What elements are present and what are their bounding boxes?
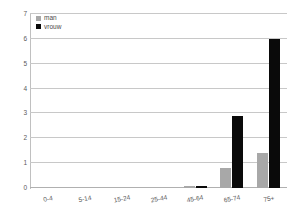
y-tick-label: 7: [5, 11, 27, 18]
legend-swatch-icon: [36, 16, 41, 21]
bar-group: [250, 14, 287, 188]
bar-group: [103, 14, 140, 188]
y-tick-label: 4: [5, 85, 27, 92]
bars-layer: [30, 14, 287, 188]
bar-vrouw: [232, 116, 243, 188]
bar-vrouw: [269, 39, 280, 188]
y-tick-label: 5: [5, 60, 27, 67]
y-tick-label: 3: [5, 110, 27, 117]
legend-item: vrouw: [36, 24, 61, 31]
bar-group: [214, 14, 251, 188]
bar-group: [67, 14, 104, 188]
x-tick-label: 25-44: [150, 194, 168, 204]
x-tick-label: 15-24: [113, 194, 131, 204]
legend: manvrouw: [36, 15, 61, 30]
x-tick-label: 5-14: [78, 195, 92, 204]
legend-item: man: [36, 15, 61, 22]
y-tick-label: 6: [5, 36, 27, 43]
bar-man: [257, 153, 268, 188]
legend-swatch-icon: [36, 24, 41, 29]
bar-chart: 01234567 0-45-1415-2425-4445-6465-7475+ …: [0, 0, 295, 218]
y-tick-label: 2: [5, 135, 27, 142]
y-tick-label: 1: [5, 160, 27, 167]
y-axis-tick-labels: 01234567: [0, 0, 27, 218]
x-tick-label: 65-74: [223, 194, 241, 204]
y-tick-label: 0: [5, 185, 27, 192]
x-tick-label: 75+: [263, 195, 275, 203]
x-axis-tick-labels: 0-45-1415-2425-4445-6465-7475+: [30, 188, 287, 218]
bar-group: [140, 14, 177, 188]
bar-group: [177, 14, 214, 188]
x-tick-label: 0-4: [43, 195, 53, 203]
bar-group: [30, 14, 67, 188]
bar-man: [220, 168, 231, 188]
legend-label: vrouw: [44, 24, 61, 31]
legend-label: man: [44, 15, 57, 22]
x-tick-label: 45-64: [186, 194, 204, 204]
plot-area: [30, 14, 287, 188]
